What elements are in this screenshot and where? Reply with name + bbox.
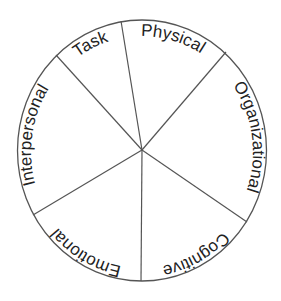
- wheel-diagram: Task Physical Organizational Cognitive E…: [0, 0, 281, 301]
- segment-label-cognitive: Cognitive: [161, 229, 233, 281]
- segment-label-interpersonal: Interpersonal: [16, 81, 53, 188]
- spoke-organizational-cognitive: [142, 150, 247, 222]
- segment-label-emotional: Emotional: [46, 225, 122, 281]
- segment-label-organizational: Organizational: [230, 78, 269, 196]
- spoke-cognitive-emotional: [141, 150, 142, 281]
- spoke-emotional-interpersonal: [33, 150, 142, 215]
- spoke-physical-organizational: [142, 52, 226, 150]
- segment-label-physical: Physical: [141, 21, 209, 57]
